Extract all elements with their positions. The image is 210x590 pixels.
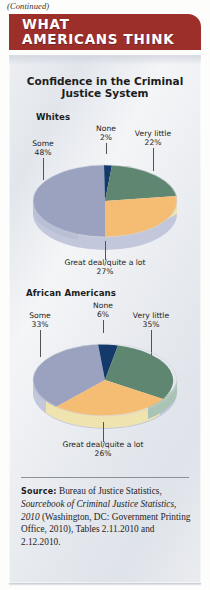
label-very-little-african-americans: Very little 35%	[123, 312, 179, 330]
pie-chart-whites	[28, 151, 182, 251]
leader-great-deal-african-americans	[103, 422, 104, 442]
label-great-deal-whites: Great deal/quite a lot 27%	[49, 259, 161, 277]
label-some-african-americans: Some 33%	[19, 312, 61, 330]
pie-chart-african-americans	[28, 332, 182, 432]
pie-slice-very-little-whites	[105, 165, 177, 201]
continued-note: (Continued)	[7, 1, 49, 11]
source-label: Source:	[21, 487, 57, 496]
pie-slice-some-aa	[33, 344, 105, 380]
figure-page: (Continued) WHAT AMERICANS THINK Confide…	[0, 0, 210, 590]
source-text-1: Bureau of Justice Statistics,	[57, 486, 162, 496]
banner-line-1: WHAT	[22, 17, 201, 32]
source-citation: Source: Bureau of Justice Statistics, So…	[21, 485, 191, 548]
banner-line-2: AMERICANS THINK	[22, 32, 201, 47]
label-none-african-americans: None 6%	[85, 302, 121, 320]
label-great-deal-african-americans: Great deal/quite a lot 26%	[47, 441, 159, 459]
panel-bottom-edge	[9, 583, 201, 586]
pie-slice-some-whites	[33, 165, 105, 201]
label-none-whites: None 2%	[88, 125, 124, 143]
what-americans-think-banner: WHAT AMERICANS THINK	[9, 14, 201, 50]
label-very-little-whites: Very little 22%	[125, 130, 181, 148]
group-heading-whites: Whites	[36, 112, 70, 122]
page-title: Confidence in the Criminal Justice Syste…	[21, 75, 189, 99]
group-heading-african-americans: African Americans	[26, 288, 116, 298]
source-divider	[21, 477, 189, 478]
chart-panel: Confidence in the Criminal Justice Syste…	[9, 55, 201, 583]
source-text-2: (Washington, DC: Government Printing Off…	[21, 512, 190, 547]
